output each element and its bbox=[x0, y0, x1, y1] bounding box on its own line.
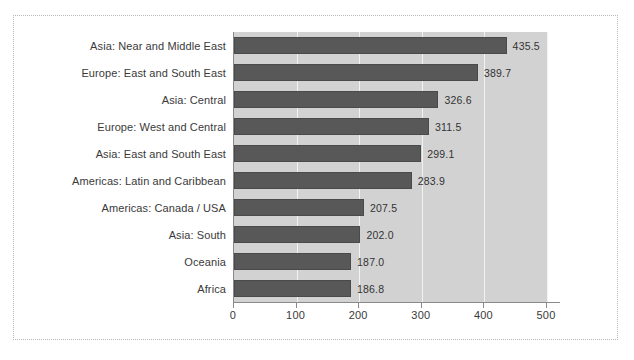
bar-row: 299.1 bbox=[234, 140, 547, 167]
x-tick-label: 300 bbox=[411, 309, 430, 321]
bar-value-label: 389.7 bbox=[484, 67, 511, 79]
bar-value-label: 207.5 bbox=[370, 202, 397, 214]
x-tick-mark bbox=[358, 303, 359, 308]
bar-row: 326.6 bbox=[234, 86, 547, 113]
x-tick-label: 200 bbox=[349, 309, 368, 321]
category-label: Americas: Canada / USA bbox=[28, 194, 232, 221]
x-tick-mark bbox=[546, 303, 547, 308]
bar-value-label: 326.6 bbox=[444, 94, 471, 106]
category-label: Asia: Near and Middle East bbox=[28, 32, 232, 59]
x-tick-mark bbox=[421, 303, 422, 308]
gridline bbox=[547, 32, 548, 302]
bar-row: 207.5 bbox=[234, 194, 547, 221]
x-axis-tick-marks bbox=[233, 303, 560, 308]
bar bbox=[234, 37, 507, 54]
bar-series: 435.5 389.7 326.6 311.5 299.1 283.9 bbox=[234, 32, 547, 302]
bar bbox=[234, 145, 421, 162]
bar-row: 186.8 bbox=[234, 275, 547, 302]
bar-row: 389.7 bbox=[234, 59, 547, 86]
x-tick-label: 100 bbox=[286, 309, 305, 321]
category-label: Africa bbox=[28, 275, 232, 302]
bar bbox=[234, 91, 438, 108]
bar bbox=[234, 64, 478, 81]
bar bbox=[234, 226, 360, 243]
category-label: Asia: Central bbox=[28, 86, 232, 113]
bar-value-label: 435.5 bbox=[513, 40, 540, 52]
category-label: Asia: South bbox=[28, 221, 232, 248]
bar bbox=[234, 172, 412, 189]
x-tick-label: 0 bbox=[230, 309, 236, 321]
bar-row: 283.9 bbox=[234, 167, 547, 194]
x-tick-label: 400 bbox=[474, 309, 493, 321]
bar bbox=[234, 253, 351, 270]
category-label: Europe: East and South East bbox=[28, 59, 232, 86]
category-label: Americas: Latin and Caribbean bbox=[28, 167, 232, 194]
bar bbox=[234, 199, 364, 216]
bar bbox=[234, 118, 429, 135]
bar-value-label: 283.9 bbox=[418, 175, 445, 187]
bar-row: 202.0 bbox=[234, 221, 547, 248]
bar-value-label: 299.1 bbox=[427, 148, 454, 160]
category-axis: Asia: Near and Middle East Europe: East … bbox=[28, 32, 232, 302]
x-tick-label: 500 bbox=[537, 309, 556, 321]
x-axis-tick-labels: 0100200300400500 bbox=[233, 309, 560, 325]
bar-row: 187.0 bbox=[234, 248, 547, 275]
category-label: Asia: East and South East bbox=[28, 140, 232, 167]
bar-value-label: 187.0 bbox=[357, 256, 384, 268]
bar-row: 435.5 bbox=[234, 32, 547, 59]
x-tick-mark bbox=[233, 303, 234, 308]
category-label: Europe: West and Central bbox=[28, 113, 232, 140]
x-tick-mark bbox=[483, 303, 484, 308]
category-label: Oceania bbox=[28, 248, 232, 275]
x-tick-mark bbox=[296, 303, 297, 308]
bar bbox=[234, 280, 351, 297]
bar-value-label: 186.8 bbox=[357, 283, 384, 295]
plot-area: 435.5 389.7 326.6 311.5 299.1 283.9 bbox=[233, 32, 547, 302]
bar-value-label: 202.0 bbox=[366, 229, 393, 241]
bar-row: 311.5 bbox=[234, 113, 547, 140]
chart-frame: Asia: Near and Middle East Europe: East … bbox=[13, 15, 618, 340]
bar-value-label: 311.5 bbox=[435, 121, 462, 133]
